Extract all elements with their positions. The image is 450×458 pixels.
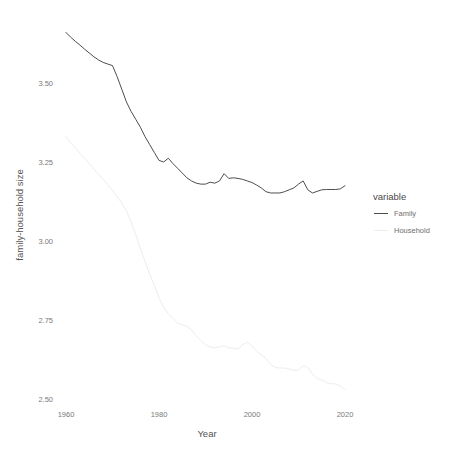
x-tick-label: 2000 bbox=[244, 410, 261, 419]
y-tick-label: 3.00 bbox=[38, 237, 53, 246]
y-tick-label: 2.50 bbox=[38, 395, 53, 404]
legend-label-household: Household bbox=[394, 226, 430, 235]
y-tick-label: 2.75 bbox=[38, 316, 53, 325]
legend-title: variable bbox=[373, 191, 406, 202]
y-tick-label: 3.50 bbox=[38, 79, 53, 88]
x-tick-label: 1980 bbox=[151, 410, 168, 419]
x-axis-title: Year bbox=[197, 428, 216, 439]
y-axis-title: family-household size bbox=[14, 169, 25, 260]
chart-background bbox=[0, 0, 450, 458]
legend-label-family: Family bbox=[394, 209, 416, 218]
line-chart: 2.50 2.75 3.00 3.25 3.50 1960 1980 2000 … bbox=[0, 0, 450, 458]
cropped-caption-sliver bbox=[224, 449, 226, 455]
x-tick-label: 2020 bbox=[337, 410, 354, 419]
x-tick-label: 1960 bbox=[58, 410, 75, 419]
chart-container: 2.50 2.75 3.00 3.25 3.50 1960 1980 2000 … bbox=[0, 0, 450, 458]
y-tick-label: 3.25 bbox=[38, 158, 53, 167]
